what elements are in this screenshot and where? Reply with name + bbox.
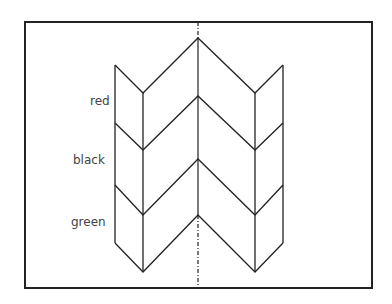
chevron-diagram: red black green: [0, 0, 392, 304]
chevron-lines: [115, 38, 283, 272]
label-black: black: [73, 153, 105, 167]
label-green: green: [71, 215, 106, 229]
label-red: red: [90, 94, 110, 108]
